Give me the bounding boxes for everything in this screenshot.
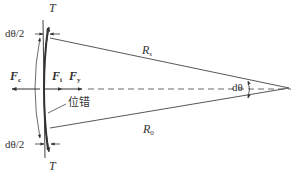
dislocation-leader-line <box>48 104 66 113</box>
dislocation-label: 位错 <box>68 97 90 108</box>
radius-line-top <box>50 38 289 88</box>
angle-label: dθ <box>232 82 243 93</box>
force-label-left: Fc <box>10 70 21 84</box>
force-label-right: Fy <box>69 70 81 84</box>
tension-label-top: T <box>49 2 56 14</box>
radius-label-top: Rs <box>142 44 152 58</box>
half-angle-label-bottom: dθ/2 <box>5 139 24 150</box>
force-label-middle: Fi <box>52 70 62 84</box>
angle-arc <box>248 81 250 98</box>
half-angle-label-top: dθ/2 <box>5 28 24 39</box>
radius-label-bottom: R0 <box>143 123 154 137</box>
outer-arc <box>35 38 40 138</box>
tension-label-bottom: T <box>49 160 56 172</box>
diagram-canvas <box>0 0 302 175</box>
